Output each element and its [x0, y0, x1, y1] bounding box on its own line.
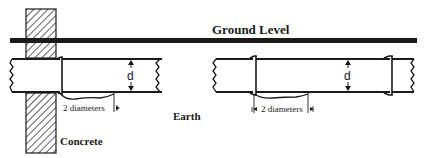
settlement-length-label-right: 2 diameters — [261, 104, 303, 114]
concrete-label: Concrete — [60, 135, 103, 147]
diameter-label-right: d — [344, 69, 351, 83]
broken-end-left — [10, 59, 13, 92]
diameter-dimension-left: d — [126, 60, 136, 91]
ground-level-line — [10, 38, 417, 43]
pipe-joint-1 — [250, 56, 256, 95]
pipe-joint-2 — [384, 56, 392, 95]
settlement-right: 2 diameters — [252, 93, 314, 114]
diameter-dimension-right: d — [343, 60, 353, 91]
concrete-wall — [26, 9, 56, 153]
left-pipe — [10, 57, 162, 94]
settlement-left: 2 diameters — [60, 93, 120, 113]
ground-level-label: Ground Level — [212, 22, 290, 37]
diameter-label-left: d — [127, 69, 134, 83]
broken-end-right — [156, 59, 160, 92]
right-pipe — [213, 56, 414, 95]
earth-label: Earth — [173, 110, 201, 122]
broken-end-left — [213, 59, 216, 92]
pipe-joint — [58, 57, 62, 94]
broken-end-right — [411, 59, 414, 92]
pipe-settlement-diagram: Ground Level d 2 diameters — [0, 0, 425, 158]
settlement-length-label-left: 2 diameters — [63, 103, 105, 113]
